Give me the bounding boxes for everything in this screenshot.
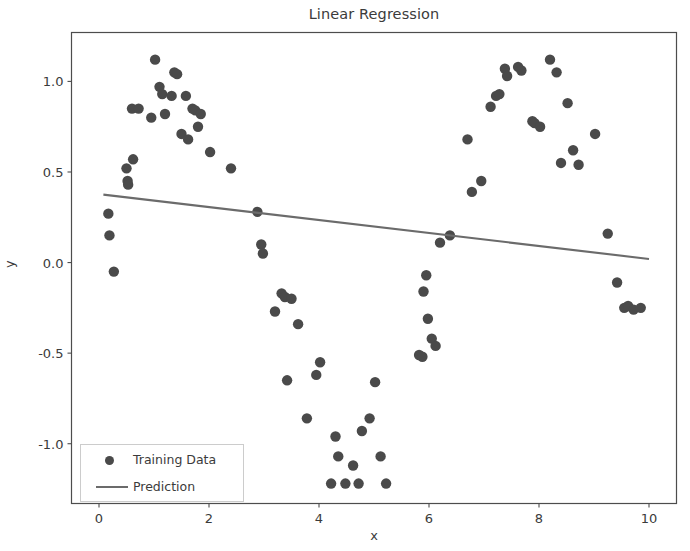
y-tick-label: -1.0	[10, 436, 64, 451]
scatter-point	[326, 478, 336, 488]
scatter-point	[340, 478, 350, 488]
x-tick-label: 6	[425, 511, 433, 526]
y-tick-label: 0.5	[10, 164, 64, 179]
scatter-point	[573, 160, 583, 170]
scatter-point	[146, 112, 156, 122]
scatter-point	[485, 102, 495, 112]
scatter-point	[423, 314, 433, 324]
x-tick-label: 10	[641, 511, 658, 526]
scatter-point	[590, 129, 600, 139]
scatter-point	[476, 176, 486, 186]
scatter-point	[128, 154, 138, 164]
scatter-point	[418, 286, 428, 296]
legend-dot-icon	[91, 445, 129, 474]
scatter-point	[172, 69, 182, 79]
scatter-point	[381, 478, 391, 488]
scatter-point	[348, 460, 358, 470]
scatter-point	[494, 89, 504, 99]
scatter-point	[123, 179, 133, 189]
y-tick-label: 1.0	[10, 74, 64, 89]
scatter-point	[109, 266, 119, 276]
scatter-point	[562, 98, 572, 108]
x-tick-label: 2	[205, 511, 213, 526]
x-tick-label: 8	[535, 511, 543, 526]
scatter-point	[181, 91, 191, 101]
y-tick-label: -0.5	[10, 346, 64, 361]
scatter-point	[612, 277, 622, 287]
scatter-point	[462, 134, 472, 144]
scatter-point	[545, 54, 555, 64]
scatter-point	[150, 54, 160, 64]
scatter-point	[133, 103, 143, 113]
scatter-point	[435, 237, 445, 247]
scatter-point	[353, 478, 363, 488]
scatter-point	[302, 413, 312, 423]
scatter-point	[603, 228, 613, 238]
scatter-point	[375, 451, 385, 461]
scatter-point	[256, 239, 266, 249]
legend-label-training-data: Training Data	[133, 452, 216, 467]
scatter-point	[357, 426, 367, 436]
linear-regression-figure: Linear Regression 1.00.50.0-0.5-1.0 0246…	[0, 0, 690, 551]
y-tick-label: 0.0	[10, 255, 64, 270]
scatter-point	[551, 67, 561, 77]
axes-spines	[72, 33, 677, 504]
scatter-point	[516, 65, 526, 75]
scatter-point	[183, 134, 193, 144]
scatter-point	[636, 303, 646, 313]
legend-item-prediction: Prediction	[81, 472, 245, 501]
scatter-point	[226, 163, 236, 173]
scatter-point	[311, 370, 321, 380]
legend-label-prediction: Prediction	[133, 479, 195, 494]
scatter-point	[166, 91, 176, 101]
scatter-point	[417, 352, 427, 362]
x-tick-label: 0	[95, 511, 103, 526]
scatter-point	[103, 208, 113, 218]
scatter-point	[121, 163, 131, 173]
regression-line-prediction	[103, 195, 649, 259]
x-tick-label: 4	[315, 511, 323, 526]
scatter-point	[430, 341, 440, 351]
legend-line-icon	[91, 472, 129, 501]
x-axis-label: x	[71, 528, 677, 543]
scatter-point	[282, 375, 292, 385]
prediction-line	[103, 195, 649, 259]
scatter-point	[205, 147, 215, 157]
scatter-point	[364, 413, 374, 423]
y-axis-label: y	[2, 260, 17, 268]
scatter-point	[160, 109, 170, 119]
scatter-point	[568, 145, 578, 155]
scatter-point	[315, 357, 325, 367]
scatter-point	[333, 451, 343, 461]
scatter-point	[104, 230, 114, 240]
scatter-point	[556, 158, 566, 168]
scatter-point	[467, 187, 477, 197]
scatter-point	[502, 71, 512, 81]
scatter-point	[286, 294, 296, 304]
scatter-point	[193, 122, 203, 132]
scatter-point	[535, 122, 545, 132]
scatter-point	[421, 270, 431, 280]
scatter-point	[270, 306, 280, 316]
legend-item-training-data: Training Data	[81, 445, 245, 474]
scatter-point	[370, 377, 380, 387]
scatter-point	[258, 248, 268, 258]
scatter-point	[293, 319, 303, 329]
scatter-points-training-data	[103, 54, 646, 488]
scatter-point	[330, 431, 340, 441]
scatter-point	[157, 89, 167, 99]
chart-legend: Training Data Prediction	[80, 444, 244, 502]
scatter-point	[196, 109, 206, 119]
